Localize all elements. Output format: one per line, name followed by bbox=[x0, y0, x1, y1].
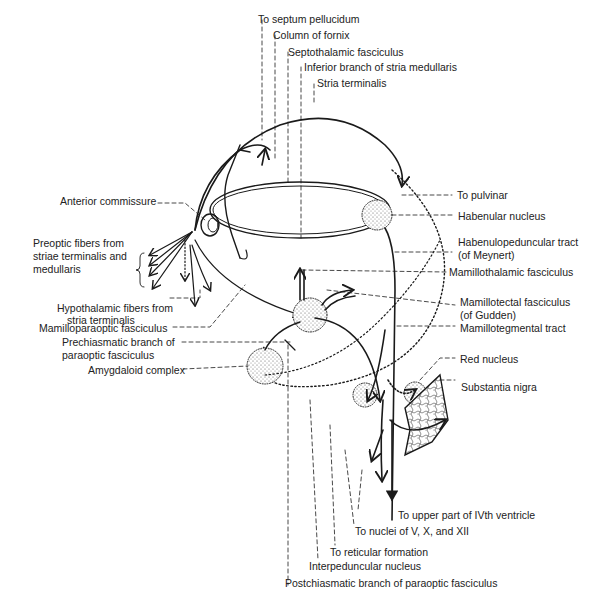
label-habenular-nucleus: Habenular nucleus bbox=[458, 210, 546, 223]
label-septothalamic-fasciculus: Septothalamic fasciculus bbox=[288, 46, 404, 59]
label-mamillothalamic-fasciculus: Mamillothalamic fasciculus bbox=[449, 266, 573, 279]
label-prechiasmatic-branch-2: paraoptic fasciculus bbox=[62, 349, 154, 362]
label-to-pulvinar: To pulvinar bbox=[457, 189, 508, 202]
label-red-nucleus: Red nucleus bbox=[460, 353, 518, 366]
amygdaloid-complex bbox=[247, 348, 283, 384]
label-inferior-branch-stria-medullaris: Inferior branch of stria medullaris bbox=[304, 61, 457, 74]
label-interpeduncular-nucleus: Interpeduncular nucleus bbox=[309, 560, 421, 573]
label-substantia-nigra: Substantia nigra bbox=[461, 381, 537, 394]
label-mamilloparaoptic-fasciculus: Mamilloparaoptic fasciculus bbox=[39, 322, 167, 335]
label-habenulopeduncular-tract-1: Habenulopeduncular tract bbox=[458, 236, 578, 249]
label-mamillotegmental-tract: Mamillotegmental tract bbox=[460, 322, 566, 335]
label-prechiasmatic-branch-1: Prechiasmatic branch of bbox=[62, 336, 175, 349]
label-postchiasmatic-branch: Postchiasmatic branch of paraoptic fasci… bbox=[285, 577, 497, 590]
label-to-reticular-formation: To reticular formation bbox=[330, 546, 428, 559]
anterior-commissure bbox=[201, 214, 219, 236]
label-preoptic-fibers-3: medullaris bbox=[33, 263, 81, 276]
label-mamillotectal-fasciculus-1: Mamillotectal fasciculus bbox=[460, 296, 570, 309]
label-stria-terminalis: Stria terminalis bbox=[317, 77, 386, 90]
label-mamillotectal-fasciculus-2: (of Gudden) bbox=[460, 309, 516, 322]
mamillary-body bbox=[293, 298, 327, 332]
label-preoptic-fibers-1: Preoptic fibers from bbox=[33, 237, 124, 250]
label-amygdaloid-complex: Amygdaloid complex bbox=[88, 364, 185, 377]
label-anterior-commissure: Anterior commissure bbox=[60, 195, 156, 208]
label-to-septum-pellucidum: To septum pellucidum bbox=[258, 13, 360, 26]
label-to-upper-part-ivth-ventricle: To upper part of IVth ventricle bbox=[398, 509, 535, 522]
habenular-nucleus bbox=[362, 200, 392, 230]
habenulopeduncular-tract bbox=[385, 228, 395, 520]
label-to-nuclei-v-x-xii: To nuclei of V, X, and XII bbox=[355, 525, 469, 538]
label-column-of-fornix: Column of fornix bbox=[273, 29, 349, 42]
label-preoptic-fibers-2: striae terminalis and bbox=[33, 250, 127, 263]
label-habenulopeduncular-tract-2: (of Meynert) bbox=[458, 249, 515, 262]
label-hypothalamic-fibers-1: Hypothalamic fibers from bbox=[57, 302, 173, 315]
